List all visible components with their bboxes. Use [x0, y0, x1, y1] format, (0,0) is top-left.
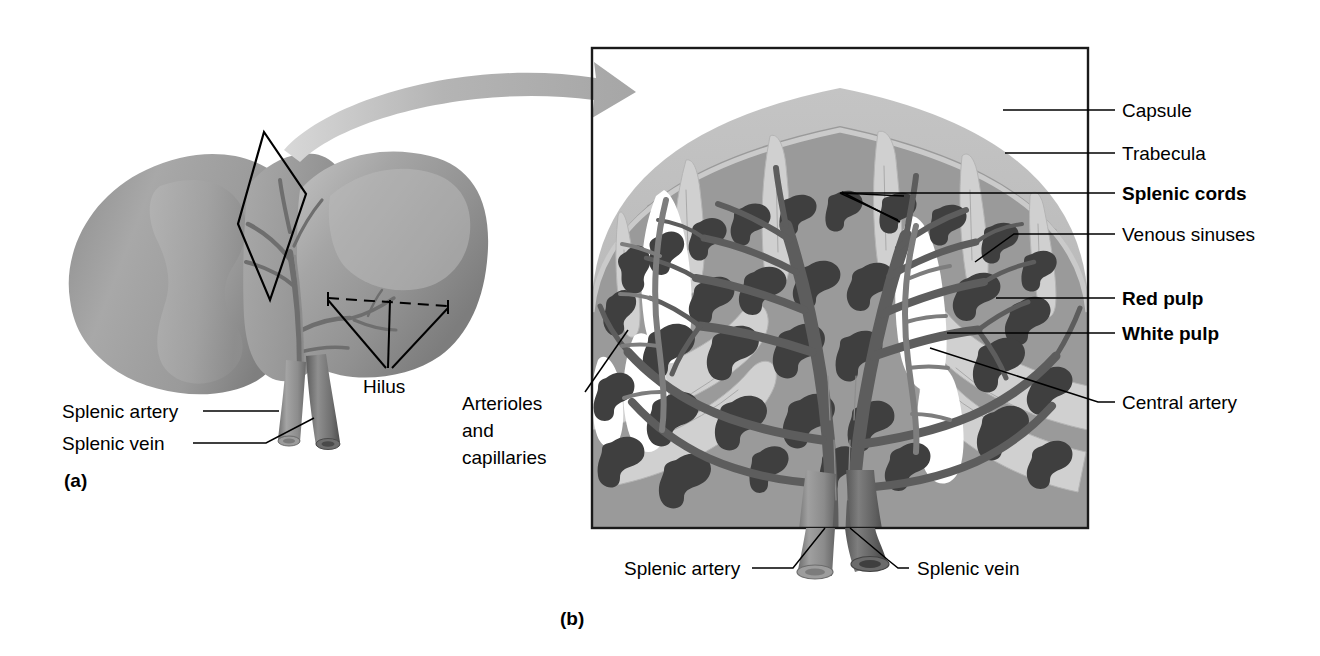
label-red-pulp: Red pulp [1122, 287, 1203, 310]
label-splenic-vein-b: Splenic vein [917, 557, 1019, 580]
label-capsule: Capsule [1122, 99, 1192, 122]
splenic-vein-inner-b [859, 560, 881, 568]
panel-tag-a: (a) [64, 470, 87, 492]
label-splenic-vein-a: Splenic vein [62, 432, 164, 455]
label-splenic-cords: Splenic cords [1122, 182, 1247, 205]
magnification-arrow [284, 62, 636, 162]
panel-b-exiting-vessels [797, 528, 889, 579]
spleen-figure: Splenic artery Splenic vein Hilus (a) Ca… [0, 0, 1320, 656]
label-venous-sinuses: Venous sinuses [1122, 223, 1255, 246]
label-splenic-artery-b: Splenic artery [624, 557, 740, 580]
label-arterioles-line-2: and [462, 419, 494, 442]
label-arterioles-line-3: capillaries [462, 446, 546, 469]
label-arterioles-line-1: Arterioles [462, 392, 542, 415]
label-trabecula: Trabecula [1122, 142, 1206, 165]
panel-a-artery-inner [283, 438, 295, 443]
splenic-artery-inner-b [805, 568, 825, 575]
label-splenic-artery-a: Splenic artery [62, 400, 178, 423]
label-white-pulp: White pulp [1122, 322, 1219, 345]
panel-a-artwork [69, 62, 636, 450]
panel-b-artwork [585, 48, 1115, 579]
panel-tag-b: (b) [560, 608, 584, 630]
panel-a-vein-inner [322, 441, 335, 447]
label-central-artery: Central artery [1122, 391, 1237, 414]
label-hilus: Hilus [363, 375, 405, 398]
